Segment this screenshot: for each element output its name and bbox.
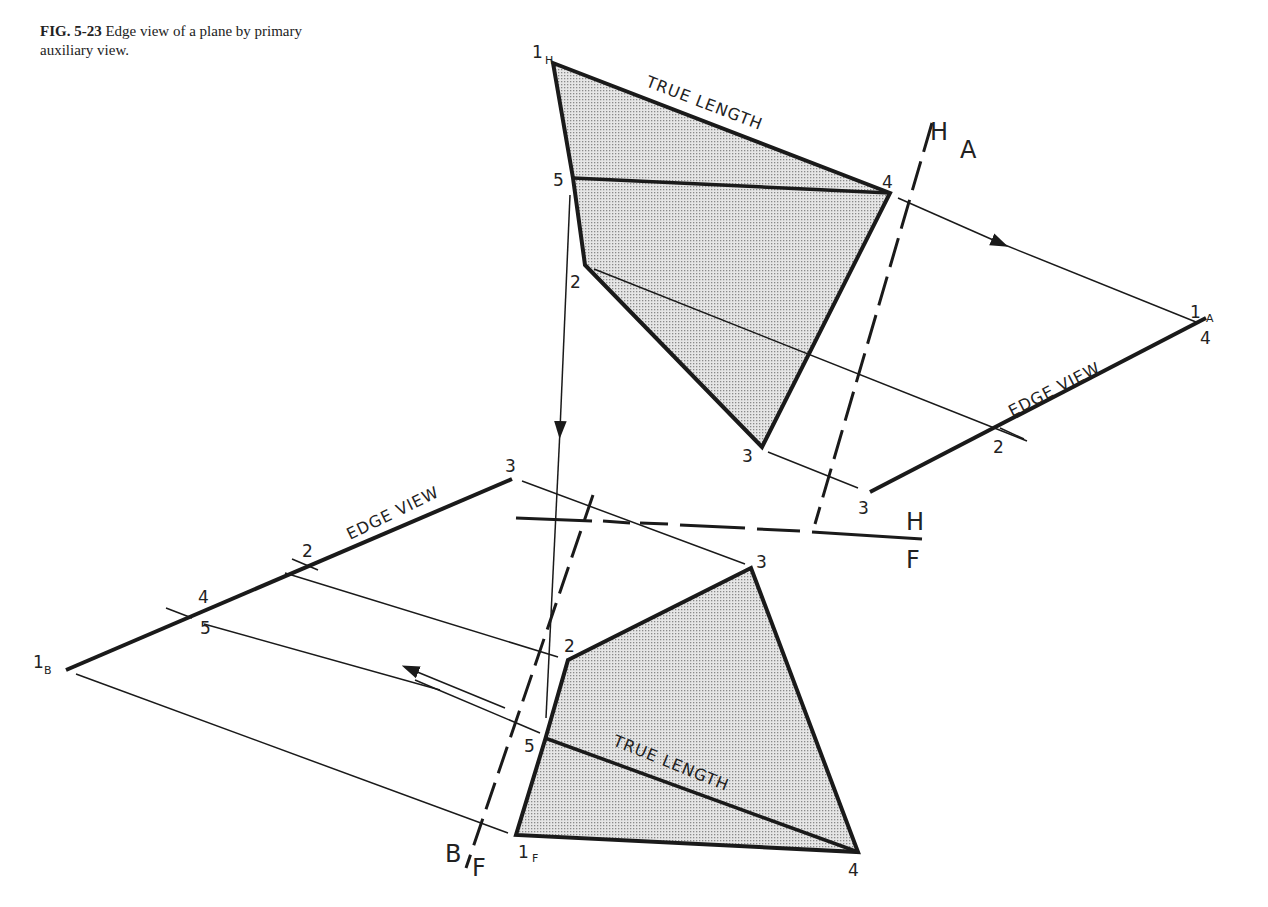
fold-label-h-f-bottom: F [906, 546, 920, 574]
fold-label-b-f-left: B [445, 840, 461, 868]
label-front-5: 5 [524, 736, 535, 756]
annotation-edge-view-b: EDGE VIEW [343, 482, 442, 543]
fold-label-h-a-bottom: A [960, 136, 977, 164]
label-top-3: 3 [742, 446, 753, 466]
label-aux-b-1: 1 [33, 652, 44, 672]
label-aux-a-2: 2 [993, 437, 1004, 457]
label-aux-a-1: 1 [1190, 302, 1201, 322]
label-aux-a-3: 3 [858, 498, 869, 518]
label-top-5: 5 [553, 170, 564, 190]
label-aux-b-2: 2 [302, 541, 313, 561]
top-view-plane-fill [553, 63, 890, 447]
edge-view-b-tick-45 [166, 608, 192, 618]
fold-label-b-f-right: F [472, 854, 486, 882]
label-aux-b-1-sub: B [44, 664, 52, 677]
projectors-f-to-b [76, 573, 558, 833]
label-front-1-sub: F [532, 852, 538, 865]
descriptive-geometry-diagram: 1 H 5 2 4 3 TRUE LENGTH H A 1 A 4 2 3 ED… [0, 0, 1268, 907]
label-front-1: 1 [518, 842, 529, 862]
label-front-2: 2 [564, 636, 575, 656]
top-view-plane [553, 63, 890, 447]
label-front-3: 3 [756, 552, 767, 572]
annotation-edge-view-a: EDGE VIEW [1005, 358, 1103, 421]
label-aux-b-3: 3 [505, 456, 516, 476]
label-aux-a-4: 4 [1200, 328, 1211, 348]
label-top-1: 1 [532, 42, 543, 62]
label-top-4: 4 [882, 172, 893, 192]
fold-label-h-f-top: H [906, 508, 924, 536]
fold-label-h-a-top: H [930, 118, 948, 146]
label-aux-a-1-sub: A [1206, 312, 1214, 325]
label-aux-b-5: 5 [200, 618, 211, 638]
front-view-plane [516, 568, 858, 852]
label-top-2: 2 [570, 272, 581, 292]
front-view-plane-fill [516, 568, 858, 852]
label-top-1-sub: H [545, 54, 553, 67]
label-aux-b-4: 4 [198, 587, 209, 607]
fold-line-h-f [516, 518, 922, 539]
label-front-4: 4 [848, 860, 859, 880]
